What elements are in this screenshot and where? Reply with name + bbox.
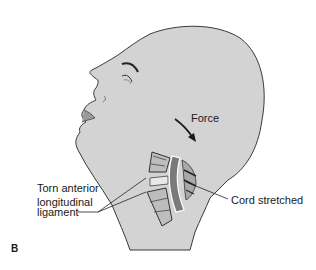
torn-disc [150,176,168,186]
torn-ligament-label-line1: Torn anterior [37,182,99,195]
cord-stretched-label: Cord stretched [231,194,303,207]
force-label: Force [191,112,219,125]
torn-ligament-label-line3: ligament [37,206,79,219]
illustration [0,0,316,270]
hyperextension-diagram: Force Torn anterior longitudinal ligamen… [0,0,316,270]
panel-label: B [11,243,18,254]
